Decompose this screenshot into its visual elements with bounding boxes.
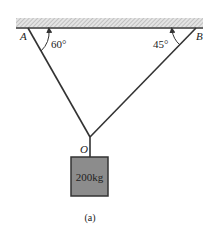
point-label-A: A	[19, 30, 27, 42]
angle-label-A: 60°	[51, 38, 66, 50]
angle-arc-A	[41, 30, 49, 51]
ceiling	[16, 18, 203, 28]
mass-label: 200kg	[76, 171, 104, 183]
statics-diagram: A B O 60° 45° 200kg (a)	[0, 0, 218, 233]
angle-label-B: 45°	[153, 38, 168, 50]
point-label-O: O	[80, 143, 88, 155]
point-label-B: B	[196, 30, 203, 42]
angle-arc-B	[172, 30, 180, 45]
cable-BO	[90, 28, 196, 137]
ceiling-hatch	[16, 18, 203, 27]
figure-caption: (a)	[84, 212, 95, 224]
